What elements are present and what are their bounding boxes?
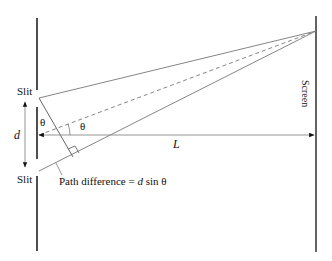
double-slit-diagram: Slit Slit d L θ θ Screen Path difference… — [0, 0, 332, 261]
ray-top — [39, 31, 316, 98]
separation-label: d — [14, 128, 21, 142]
slit-top-label: Slit — [17, 85, 32, 97]
screen-label: Screen — [300, 80, 311, 107]
angle-arc-center — [68, 124, 70, 135]
slit-bottom-label: Slit — [17, 173, 32, 185]
distance-label: L — [172, 137, 180, 151]
path-difference-label: Path difference = d sin θ — [59, 175, 167, 187]
path-difference-suffix: sin θ — [143, 175, 167, 187]
angle-center-label: θ — [80, 120, 85, 132]
path-difference-prefix: Path difference = — [59, 175, 137, 187]
path-difference-leader — [56, 163, 62, 175]
angle-left-label: θ — [40, 116, 45, 128]
